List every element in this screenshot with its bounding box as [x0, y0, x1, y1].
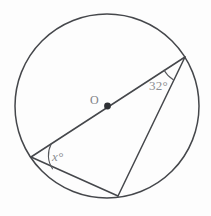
center-label-o: O	[90, 94, 99, 106]
angle-label-x: x°	[52, 150, 63, 163]
geometry-canvas	[0, 0, 211, 216]
angle-label-32: 32°	[149, 79, 168, 92]
chord-lower-left-to-bottom	[31, 157, 118, 196]
center-point-dot	[104, 103, 111, 110]
geometry-figure: 32° x° O	[0, 0, 211, 216]
